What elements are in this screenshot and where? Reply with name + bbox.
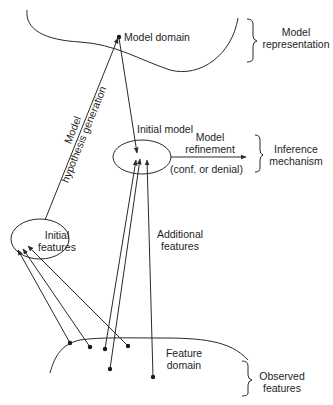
inference-brace	[255, 135, 263, 172]
feature-point-2	[88, 345, 92, 349]
conf-or-denial-label: (conf. or denial)	[170, 163, 243, 175]
model-domain-label: Model domain	[124, 31, 190, 43]
additional-features-label: Additional features	[150, 228, 210, 252]
feature-point-1	[68, 341, 72, 345]
feature-domain-curve	[50, 338, 248, 373]
feature-point-6	[151, 375, 155, 379]
inference-diagram	[0, 0, 333, 405]
observed-features-brace	[242, 361, 252, 396]
feature-arrow-1	[18, 250, 70, 343]
model-domain-point	[117, 35, 121, 39]
initial-model-ellipse	[113, 140, 171, 174]
initial-model-arrow	[119, 38, 137, 153]
feature-point-5	[108, 367, 112, 371]
feature-point-3	[103, 347, 107, 351]
feature-domain-label: Feature domain	[162, 347, 206, 371]
additional-feature-arrow-1	[105, 160, 136, 349]
initial-features-label: Initial features	[36, 229, 78, 253]
additional-feature-arrow-3	[147, 160, 153, 377]
model-representation-label: Model representation	[262, 26, 330, 50]
observed-features-label: Observed features	[254, 370, 310, 394]
model-representation-brace	[247, 19, 257, 62]
feature-point-4	[126, 344, 130, 348]
model-refinement-label: Model refinement	[180, 131, 240, 155]
feature-arrow-3	[28, 246, 128, 346]
inference-mechanism-label: Inference mechanism	[266, 143, 326, 167]
